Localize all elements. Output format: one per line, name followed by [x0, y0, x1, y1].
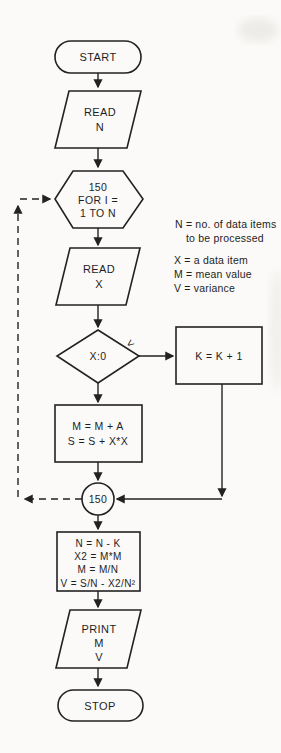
compute-line4: V = S/N - X2/N²	[60, 578, 135, 589]
increment-label: K = K + 1	[195, 350, 242, 362]
loop-line2: FOR I =	[78, 194, 118, 206]
compute-line1: N = N - K	[76, 538, 121, 549]
decision-label: X:0	[90, 350, 107, 362]
stop-label: STOP	[84, 700, 115, 712]
loop-line3: 1 TO N	[80, 207, 116, 219]
legend-n-definition: N = no. of data items	[175, 218, 276, 230]
legend-n-definition-cont: to be processed	[186, 232, 264, 244]
legend-m-definition: M = mean value	[174, 268, 252, 280]
compute-line2: X2 = M*M	[74, 551, 121, 562]
flowchart-page: START READ N 150 FOR I = 1 TO N READ X X…	[0, 0, 281, 753]
start-label: START	[79, 51, 116, 63]
read-n-line1: READ	[84, 106, 116, 118]
compute-line3: M = M/N	[78, 564, 119, 575]
read-n-io	[55, 91, 141, 148]
scan-smudge	[238, 18, 278, 42]
read-x-line2: X	[95, 278, 103, 290]
legend-x-definition: X = a data item	[174, 254, 248, 266]
read-x-io	[56, 248, 140, 305]
print-line1: PRINT	[82, 623, 117, 635]
legend-v-definition: V = variance	[174, 282, 235, 294]
read-n-line2: N	[96, 121, 104, 133]
print-line2: M	[94, 637, 104, 649]
connector-label: 150	[89, 493, 108, 505]
scan-smudge	[269, 270, 281, 390]
loop-line1: 150	[89, 181, 108, 193]
accumulate-line1: M = M + A	[72, 420, 123, 432]
print-line3: V	[95, 651, 103, 663]
accumulate-process	[55, 405, 142, 462]
accumulate-line2: S = S + X*X	[68, 435, 128, 447]
flowchart-canvas: START READ N 150 FOR I = 1 TO N READ X X…	[0, 0, 281, 753]
read-x-line1: READ	[83, 263, 115, 275]
